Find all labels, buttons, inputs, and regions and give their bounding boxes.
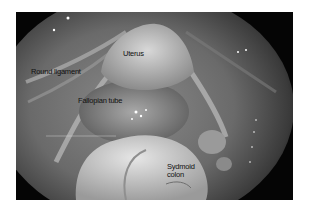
label-round-ligament: Round ligament — [31, 68, 81, 76]
right-adnexa — [198, 130, 226, 154]
label-fallopian-tube: Fallopian tube — [78, 97, 122, 105]
laparoscopic-photo — [16, 12, 293, 200]
photo-illustration — [16, 12, 293, 200]
label-uterus: Uterus — [123, 50, 144, 58]
label-sigmoid-colon-line2: colon — [167, 171, 184, 179]
pouch-of-douglas — [79, 80, 189, 144]
